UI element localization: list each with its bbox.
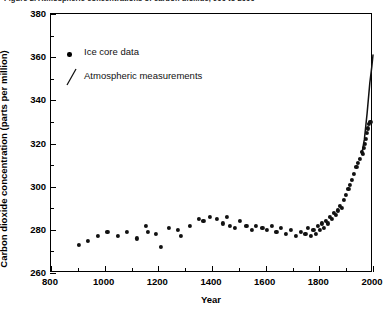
y-tick-label: 260	[6, 267, 46, 278]
y-tick-label: 380	[6, 8, 46, 19]
x-tick-label: 2000	[361, 276, 382, 287]
x-tick-label: 1800	[308, 276, 329, 287]
y-tick-label: 280	[6, 223, 46, 234]
y-tick-major	[50, 273, 56, 274]
chart-figure: Figure 2. Atmospheric concentrations of …	[0, 0, 386, 317]
x-tick-major	[373, 266, 374, 272]
atmospheric-measurements-series	[51, 14, 373, 273]
y-axis-title: Carbon dioxide concentration (parts per …	[0, 34, 9, 284]
x-tick-label: 1000	[93, 276, 114, 287]
y-tick-label: 300	[6, 180, 46, 191]
y-tick-label: 340	[6, 94, 46, 105]
x-axis-title: Year	[50, 294, 372, 305]
x-tick-label: 800	[42, 276, 58, 287]
y-tick-label: 360	[6, 51, 46, 62]
y-tick-label: 320	[6, 137, 46, 148]
x-tick-label: 1200	[147, 276, 168, 287]
x-tick-label: 1400	[200, 276, 221, 287]
figure-title: Figure 2. Atmospheric concentrations of …	[4, 0, 384, 3]
plot-area: Ice core data Atmospheric measurements	[50, 13, 372, 272]
x-tick-label: 1600	[254, 276, 275, 287]
